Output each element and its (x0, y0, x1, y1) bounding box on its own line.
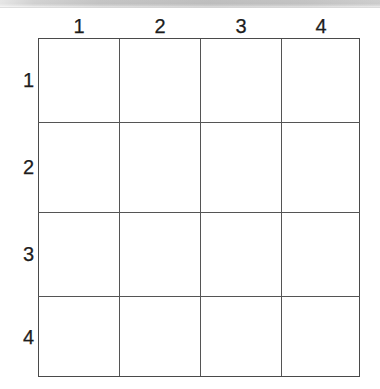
column-header-1: 1 (64, 16, 94, 36)
grid-cell-r3c1[interactable] (39, 213, 119, 296)
grid-line-horizontal-3 (38, 296, 360, 297)
grid-cell-r2c4[interactable] (282, 123, 359, 212)
column-header-3: 3 (226, 16, 256, 36)
grid-line-horizontal-2 (38, 212, 360, 213)
grid-cell-r3c2[interactable] (120, 213, 199, 296)
grid-cell-r2c2[interactable] (120, 123, 199, 212)
row-header-4: 4 (12, 327, 34, 347)
grid-cell-r4c3[interactable] (201, 297, 280, 376)
grid-line-vertical-1 (119, 38, 120, 377)
grid-line-horizontal-bottom (38, 376, 360, 377)
row-header-2: 2 (12, 157, 34, 177)
grid-cell-r4c2[interactable] (120, 297, 199, 376)
grid-cell-r2c3[interactable] (201, 123, 280, 212)
grid-table[interactable] (38, 38, 360, 377)
page-canvas: 1 2 3 4 1 2 3 4 (0, 0, 380, 389)
grid-line-vertical-3 (281, 38, 282, 377)
grid-cell-r1c3[interactable] (201, 39, 280, 122)
grid-line-horizontal-top (38, 38, 360, 39)
grid-line-vertical-left (38, 38, 39, 377)
grid-cell-r3c4[interactable] (282, 213, 359, 296)
grid-cell-r1c4[interactable] (282, 39, 359, 122)
grid-cell-r2c1[interactable] (39, 123, 119, 212)
grid-line-vertical-2 (200, 38, 201, 377)
grid-cell-r4c1[interactable] (39, 297, 119, 376)
grid-cell-r4c4[interactable] (282, 297, 359, 376)
grid-line-horizontal-1 (38, 122, 360, 123)
row-header-3: 3 (12, 244, 34, 264)
grid-line-vertical-right (359, 38, 360, 377)
grid-cell-r3c3[interactable] (201, 213, 280, 296)
column-header-2: 2 (145, 16, 175, 36)
row-header-1: 1 (12, 70, 34, 90)
scan-band-bottom-edge (0, 7, 380, 8)
column-header-4: 4 (306, 16, 336, 36)
grid-cell-r1c2[interactable] (120, 39, 199, 122)
grid-cell-r1c1[interactable] (39, 39, 119, 122)
